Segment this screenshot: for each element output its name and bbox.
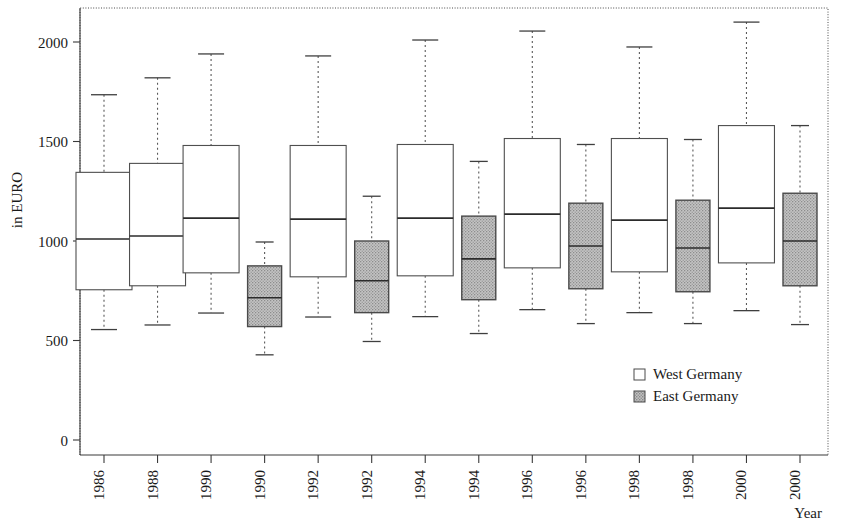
- y-tick-label: 0: [61, 433, 69, 449]
- boxplot-box: [462, 161, 496, 333]
- boxplot-series: [76, 22, 817, 355]
- boxplot-box: [569, 144, 603, 323]
- boxplot-box: [504, 31, 560, 310]
- x-tick-label: 1986: [91, 470, 107, 501]
- y-tick-label: 1500: [38, 134, 68, 150]
- y-axis: 0500100015002000: [38, 35, 80, 449]
- legend-swatch-west-germany: [634, 369, 645, 380]
- box-body: [76, 172, 132, 289]
- box-body: [462, 216, 496, 300]
- box-body: [718, 126, 774, 263]
- box-body: [248, 266, 282, 327]
- boxplot-svg: 0500100015002000 19861988199019901992199…: [0, 0, 841, 525]
- x-tick-label: 1994: [466, 470, 482, 501]
- box-body: [397, 144, 453, 275]
- boxplot-chart: 0500100015002000 19861988199019901992199…: [0, 0, 841, 525]
- x-tick-label: 1996: [519, 470, 535, 501]
- y-axis-title: in EURO: [9, 172, 25, 228]
- x-tick-label: 1992: [359, 470, 375, 500]
- x-tick-label: 1992: [305, 470, 321, 500]
- legend-label-east-germany: East Germany: [653, 388, 739, 404]
- y-tick-label: 2000: [38, 35, 68, 51]
- x-axis: 1986198819901990199219921994199419961996…: [91, 455, 803, 500]
- y-tick-label: 500: [46, 333, 69, 349]
- chart-legend: West GermanyEast Germany: [634, 366, 743, 404]
- box-body: [355, 241, 389, 313]
- legend-swatch-east-germany: [634, 391, 645, 402]
- x-tick-label: 1996: [573, 470, 589, 501]
- boxplot-box: [397, 40, 453, 317]
- box-body: [183, 145, 239, 272]
- boxplot-box: [676, 140, 710, 324]
- boxplot-box: [611, 47, 667, 313]
- x-tick-label: 1990: [252, 470, 268, 500]
- x-tick-label: 2000: [787, 470, 803, 500]
- boxplot-box: [248, 242, 282, 355]
- x-tick-label: 2000: [733, 470, 749, 500]
- boxplot-box: [76, 95, 132, 330]
- box-body: [130, 163, 186, 285]
- boxplot-box: [718, 22, 774, 311]
- box-body: [676, 200, 710, 292]
- boxplot-box: [183, 54, 239, 313]
- box-body: [611, 139, 667, 272]
- legend-label-west-germany: West Germany: [653, 366, 743, 382]
- boxplot-box: [355, 196, 389, 341]
- x-tick-label: 1998: [626, 470, 642, 500]
- box-body: [504, 139, 560, 268]
- x-axis-title: Year: [794, 505, 822, 521]
- boxplot-box: [130, 78, 186, 325]
- box-body: [290, 145, 346, 276]
- x-tick-label: 1990: [198, 470, 214, 500]
- x-tick-label: 1998: [680, 470, 696, 500]
- boxplot-box: [783, 126, 817, 325]
- box-body: [783, 193, 817, 286]
- y-tick-label: 1000: [38, 234, 68, 250]
- boxplot-box: [290, 56, 346, 317]
- x-tick-label: 1994: [412, 470, 428, 501]
- x-tick-label: 1988: [145, 470, 161, 500]
